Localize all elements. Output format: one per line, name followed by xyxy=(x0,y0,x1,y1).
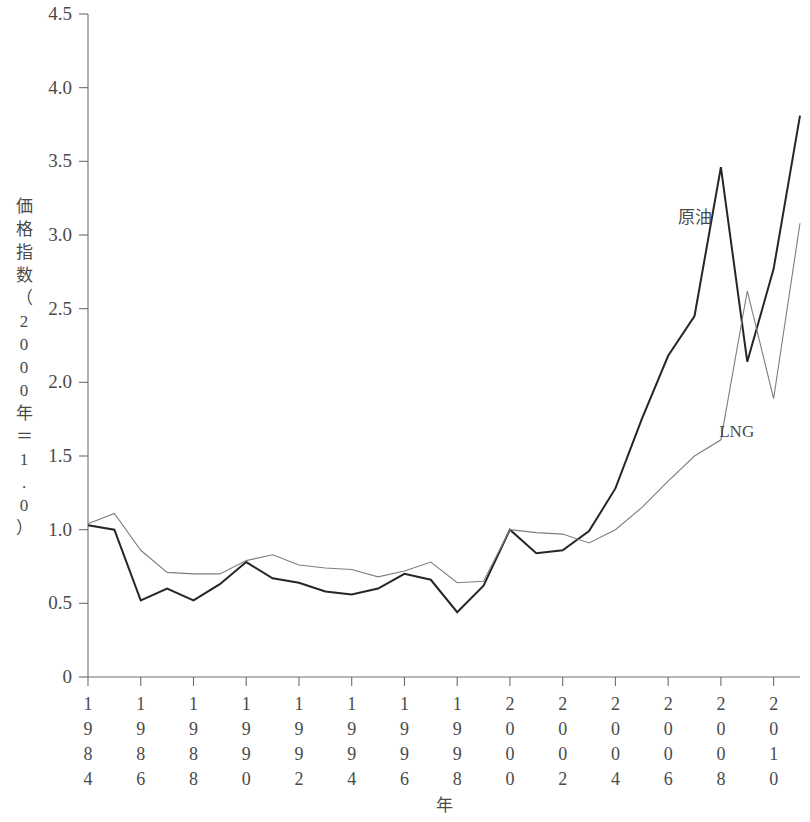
x-tick-label-digit: 1 xyxy=(189,694,198,714)
x-tick-label: 2006 xyxy=(664,694,673,789)
y-tick-label: 3.0 xyxy=(48,224,72,245)
x-tick-label-digit: 2 xyxy=(294,769,303,789)
x-tick-label-digit: 1 xyxy=(347,694,356,714)
y-tick-label: 2.5 xyxy=(48,298,72,319)
x-tick-label-digit: 2 xyxy=(558,769,567,789)
x-tick-label-digit: 8 xyxy=(136,744,145,764)
x-tick-label-digit: 0 xyxy=(716,719,725,739)
x-tick-label-digit: 2 xyxy=(611,694,620,714)
x-tick-label-digit: 1 xyxy=(453,694,462,714)
y-tick-label: 0 xyxy=(63,666,73,687)
x-tick-label-digit: 0 xyxy=(505,719,514,739)
x-tick-label: 2004 xyxy=(611,694,620,789)
x-tick-label-digit: 2 xyxy=(664,694,673,714)
x-tick-label-digit: 0 xyxy=(664,719,673,739)
x-tick-label: 2008 xyxy=(716,694,725,789)
x-tick-label-digit: 2 xyxy=(716,694,725,714)
x-tick-label-digit: 9 xyxy=(400,719,409,739)
y-axis-title-char: 0 xyxy=(20,381,29,400)
x-tick-label-digit: 1 xyxy=(242,694,251,714)
x-tick-label: 1988 xyxy=(189,694,198,789)
x-tick-label-digit: 2 xyxy=(505,694,514,714)
x-tick-label-digit: 0 xyxy=(558,719,567,739)
x-tick-label-digit: 8 xyxy=(716,769,725,789)
y-axis-title-char: 0 xyxy=(20,335,29,354)
x-tick-label-digit: 0 xyxy=(611,719,620,739)
y-tick-label: 2.0 xyxy=(48,371,72,392)
x-axis-title: 年 xyxy=(436,796,453,815)
x-tick-label-digit: 9 xyxy=(347,719,356,739)
y-axis-title-char: 0 xyxy=(20,496,29,515)
x-tick-label-digit: 9 xyxy=(136,719,145,739)
x-tick-label: 2000 xyxy=(505,694,514,789)
y-axis-title-char: 0 xyxy=(20,358,29,377)
x-tick-label-digit: 8 xyxy=(453,769,462,789)
x-tick-label-digit: 2 xyxy=(769,694,778,714)
x-axis-ticks: 1984198619881990199219941996199820002002… xyxy=(84,677,779,789)
x-tick-label-digit: 9 xyxy=(453,719,462,739)
x-tick-label-digit: 0 xyxy=(558,744,567,764)
x-tick-label-digit: 6 xyxy=(136,769,145,789)
x-tick-label-digit: 4 xyxy=(611,769,620,789)
x-tick-label: 2002 xyxy=(558,694,567,789)
x-tick-label-digit: 6 xyxy=(400,769,409,789)
y-tick-label: 4.0 xyxy=(48,77,72,98)
x-tick-label: 1984 xyxy=(84,694,93,789)
y-axis-title-char: 1 xyxy=(20,450,29,469)
y-axis-title: 価格指数（2000年＝1.0） xyxy=(16,197,33,538)
y-axis-ticks: 4.54.03.53.02.52.01.51.00.50 xyxy=(48,3,88,687)
series-line-lng xyxy=(88,223,800,583)
x-axis: 1984198619881990199219941996199820002002… xyxy=(84,677,801,789)
x-tick-label-digit: 1 xyxy=(84,694,93,714)
x-tick-label: 1998 xyxy=(453,694,462,789)
x-tick-label-digit: 0 xyxy=(716,744,725,764)
x-tick-label: 2010 xyxy=(769,694,778,789)
x-tick-label-digit: 1 xyxy=(294,694,303,714)
data-series-group xyxy=(88,116,800,613)
y-axis-title-char: 2 xyxy=(20,312,29,331)
x-tick-label-digit: 0 xyxy=(242,769,251,789)
x-tick-label-digit: 1 xyxy=(136,694,145,714)
y-axis-title-char: 格 xyxy=(16,220,33,239)
y-axis-title-char: 年 xyxy=(16,404,33,423)
x-tick-label-digit: 9 xyxy=(400,744,409,764)
x-tick-label-digit: 9 xyxy=(242,744,251,764)
x-tick-label-digit: 9 xyxy=(294,719,303,739)
series-label-crude-oil: 原油 xyxy=(678,208,712,227)
x-tick-label-digit: 6 xyxy=(664,769,673,789)
chart-svg: 4.54.03.53.02.52.01.51.00.50 19841986198… xyxy=(0,0,810,822)
y-axis-title-char: 指 xyxy=(16,243,33,262)
x-tick-label-digit: 8 xyxy=(84,744,93,764)
y-tick-label: 0.5 xyxy=(48,592,72,613)
x-tick-label: 1996 xyxy=(400,694,409,789)
x-tick-label-digit: 9 xyxy=(453,744,462,764)
x-tick-label-digit: 8 xyxy=(189,769,198,789)
y-axis-title-char: ＝ xyxy=(16,427,33,446)
y-axis-title-char: 価 xyxy=(16,197,33,216)
x-tick-label-digit: 0 xyxy=(505,769,514,789)
y-axis-title-char: 数 xyxy=(16,266,33,285)
x-tick-label: 1992 xyxy=(294,694,303,789)
x-tick-label-digit: 9 xyxy=(189,719,198,739)
price-index-line-chart: 4.54.03.53.02.52.01.51.00.50 19841986198… xyxy=(0,0,810,822)
y-axis-title-char: ） xyxy=(16,519,33,538)
x-tick-label-digit: 9 xyxy=(242,719,251,739)
x-tick-label-digit: 4 xyxy=(84,769,93,789)
y-tick-label: 1.5 xyxy=(48,445,72,466)
x-tick-label-digit: 0 xyxy=(664,744,673,764)
series-line-crude-oil xyxy=(88,116,800,613)
x-tick-label-digit: 9 xyxy=(84,719,93,739)
series-label-lng: LNG xyxy=(719,422,754,441)
x-tick-label: 1994 xyxy=(347,694,356,789)
y-tick-label: 3.5 xyxy=(48,150,72,171)
x-tick-label-digit: 0 xyxy=(505,744,514,764)
x-tick-label-digit: 1 xyxy=(400,694,409,714)
x-tick-label: 1986 xyxy=(136,694,145,789)
x-tick-label: 1990 xyxy=(242,694,251,789)
x-tick-label-digit: 0 xyxy=(769,719,778,739)
x-tick-label-digit: 8 xyxy=(189,744,198,764)
y-axis: 4.54.03.53.02.52.01.51.00.50 xyxy=(48,3,88,687)
y-axis-title-char: （ xyxy=(16,289,33,308)
x-tick-label-digit: 0 xyxy=(769,769,778,789)
y-tick-label: 4.5 xyxy=(48,3,72,24)
